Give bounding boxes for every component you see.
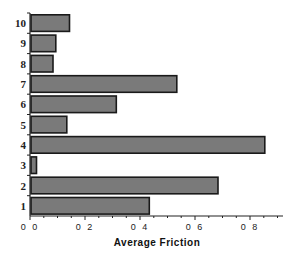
bars-group	[31, 15, 265, 214]
category-label-10: 10	[15, 17, 27, 29]
bar-8	[31, 55, 53, 72]
bar-10	[31, 15, 70, 32]
bar-9	[31, 35, 56, 52]
bar-1	[31, 198, 149, 215]
x-tick-label: 0 4	[131, 222, 150, 232]
x-tick-label: 0 8	[241, 222, 260, 232]
bar-3	[31, 157, 37, 174]
bar-5	[31, 116, 67, 133]
category-label-7: 7	[21, 78, 27, 90]
category-label-6: 6	[21, 98, 27, 110]
x-tick-label: 0 6	[186, 222, 205, 232]
bar-6	[31, 96, 116, 113]
bar-4	[31, 137, 265, 154]
category-label-2: 2	[21, 180, 27, 192]
category-labels: 12345678910	[15, 17, 27, 212]
x-tick-label: 0 2	[76, 222, 95, 232]
category-label-8: 8	[21, 58, 27, 70]
bar-7	[31, 76, 177, 93]
category-label-1: 1	[21, 200, 27, 212]
bar-chart: 12345678910 0 00 20 40 60 8 Average Fric…	[0, 0, 294, 262]
category-label-3: 3	[21, 159, 27, 171]
category-label-5: 5	[21, 119, 27, 131]
category-label-9: 9	[21, 37, 27, 49]
bar-2	[31, 177, 218, 194]
category-label-4: 4	[21, 139, 27, 151]
x-axis-title: Average Friction	[114, 237, 201, 248]
x-tick-label: 0 0	[21, 222, 40, 232]
x-axis-ticks: 0 00 20 40 60 8	[21, 216, 278, 232]
